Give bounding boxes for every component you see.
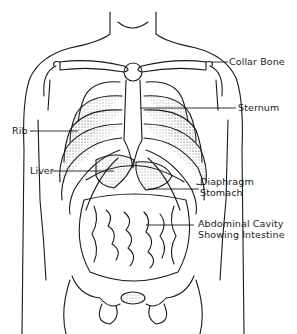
label-stomach: Stomach bbox=[200, 187, 243, 198]
intestines-shape bbox=[79, 194, 189, 281]
label-collar-bone: Collar Bone bbox=[229, 56, 285, 67]
sternum-shape bbox=[124, 63, 142, 168]
label-rib: Rib bbox=[12, 125, 28, 136]
rib-cage-left bbox=[60, 82, 122, 214]
right-shoulder bbox=[210, 66, 222, 110]
anatomy-diagram: Collar Bone Sternum Rib Liver Diaphragm … bbox=[0, 0, 297, 334]
label-liver: Liver bbox=[30, 165, 54, 176]
label-diaphragm: Diaphragm bbox=[200, 176, 254, 187]
pelvis-shape bbox=[64, 276, 203, 334]
label-abdominal-cavity: Abdominal Cavity bbox=[198, 218, 283, 229]
left-shoulder bbox=[44, 66, 56, 110]
rib-cage-right bbox=[144, 82, 206, 214]
body-outline bbox=[22, 12, 244, 334]
label-showing-intestine: Showing Intestine bbox=[198, 229, 285, 240]
label-sternum: Sternum bbox=[238, 102, 279, 113]
collar-bone-shape bbox=[54, 61, 213, 72]
bladder-shape bbox=[121, 292, 145, 304]
leader-lines bbox=[30, 62, 236, 225]
